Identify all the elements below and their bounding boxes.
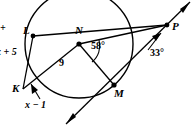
arrowhead-lower-left: [66, 113, 76, 124]
segment-label-x-plus-5: x + 5: [0, 47, 17, 57]
segment-label-x-minus-1: x − 1: [25, 100, 46, 110]
point-label-K: K: [12, 83, 19, 94]
segment-K-to-N: [23, 44, 79, 89]
arrowhead-upper-right: [180, 2, 190, 13]
clipped-label-fragment: +: [0, 23, 6, 33]
point-label-N: N: [75, 25, 83, 36]
point-dot-L: [31, 34, 36, 39]
point-dot-P: [165, 23, 170, 28]
segment-L-to-P: [33, 25, 167, 36]
circle-geometry-figure: L N M K P 58° 33° 9 x + 5 x − 1 +: [0, 0, 192, 127]
segment-label-9: 9: [59, 58, 64, 68]
point-dot-N: [76, 41, 81, 46]
angle-label-58: 58°: [91, 41, 105, 51]
point-label-L: L: [23, 25, 30, 36]
point-label-M: M: [114, 88, 124, 99]
angle-label-33: 33°: [150, 48, 164, 58]
point-label-P: P: [172, 21, 179, 32]
leader-arrowhead-x-minus-1: [31, 84, 38, 94]
circle-outline: [25, 0, 133, 98]
